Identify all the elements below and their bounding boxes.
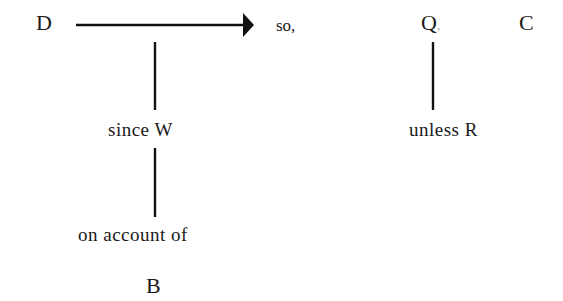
backing-label: B bbox=[146, 275, 161, 297]
arrowhead-icon bbox=[243, 13, 254, 37]
toulmin-diagram: D so, Q, C since W on account of B unles… bbox=[0, 0, 563, 301]
qualifier-letter: Q bbox=[421, 10, 437, 35]
backing-connector-label: on account of bbox=[78, 225, 188, 244]
so-connector-label: so, bbox=[276, 17, 295, 34]
qualifier-trailing-mark: , bbox=[437, 18, 441, 33]
qualifier-label: Q, bbox=[421, 12, 440, 34]
data-label: D bbox=[36, 12, 52, 34]
rebuttal-label: unless R bbox=[409, 120, 478, 139]
claim-label: C bbox=[519, 12, 534, 34]
diagram-connectors bbox=[0, 0, 563, 301]
warrant-label: since W bbox=[108, 120, 173, 139]
